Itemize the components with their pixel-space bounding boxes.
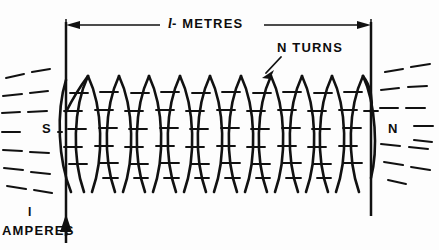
north-pole-label: N: [388, 122, 399, 135]
solenoid-diagram-svg: [0, 0, 439, 250]
coil-turn-back: [290, 76, 302, 192]
coil-turn-front: [271, 76, 283, 192]
coil-turn-front: [180, 76, 192, 192]
coil-turn-front: [241, 76, 253, 192]
coil-turn-back: [229, 76, 241, 192]
south-pole-label: S: [42, 122, 52, 135]
field-line-dash: [2, 69, 62, 193]
length-dimension-label: l- METRES: [168, 17, 243, 31]
field-lines-left-group: [2, 69, 62, 193]
diagram-canvas: l- METRES N TURNS S N I AMPERES: [0, 0, 439, 250]
arrow-left-icon: [66, 21, 80, 29]
coil-turn-back: [107, 76, 119, 192]
current-units-label: AMPERES: [2, 224, 74, 237]
coil-turn-back: [351, 76, 363, 192]
coil-turn-front: [149, 76, 161, 192]
coil-turn-front: [88, 76, 100, 192]
turns-label: N TURNS: [277, 41, 343, 54]
coil-turn-front: [210, 76, 222, 192]
coil-turn-front: [332, 76, 344, 192]
coil-turn-front: [302, 76, 314, 192]
coil-turn-back: [168, 76, 180, 192]
current-symbol-label: I: [28, 206, 31, 218]
coil-turn-front: [119, 76, 131, 192]
length-unit-text: - METRES: [172, 16, 243, 31]
arrow-right-icon: [357, 21, 371, 29]
